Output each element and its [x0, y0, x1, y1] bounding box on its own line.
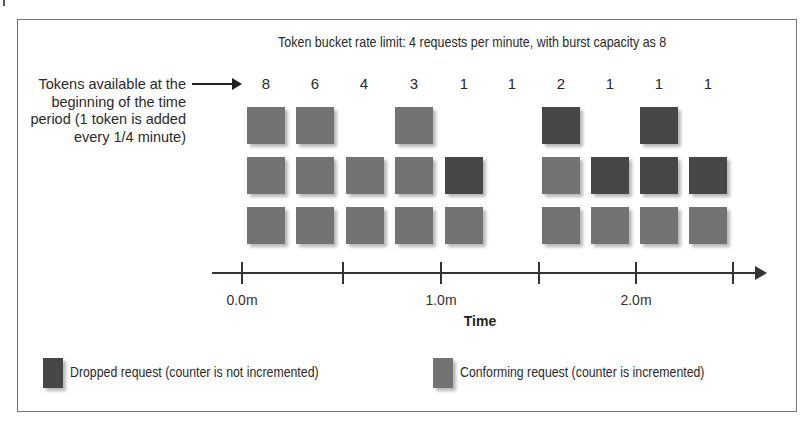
- figure-title: Token bucket rate limit: 4 requests per …: [240, 34, 704, 50]
- dropped-request: [640, 107, 678, 144]
- tokens-note: Tokens available at the beginning of the…: [20, 76, 186, 146]
- conforming-request: [542, 157, 580, 194]
- dropped-request: [689, 157, 727, 194]
- tick-label: 2.0m: [611, 292, 661, 308]
- conforming-request: [445, 207, 483, 244]
- token-count: 6: [300, 75, 330, 92]
- conforming-request: [640, 207, 678, 244]
- conforming-request: [395, 107, 433, 144]
- conforming-request: [395, 207, 433, 244]
- token-count: 1: [449, 75, 479, 92]
- token-count: 3: [399, 75, 429, 92]
- token-count: 2: [546, 75, 576, 92]
- arrow-right-icon: [192, 83, 240, 85]
- legend-label-conforming: Conforming request (counter is increment…: [460, 364, 704, 380]
- conforming-request: [296, 207, 334, 244]
- conforming-request: [395, 157, 433, 194]
- conforming-request: [296, 157, 334, 194]
- token-count: 1: [595, 75, 625, 92]
- tick-label: 0.0m: [217, 292, 267, 308]
- axis-tick: [732, 262, 734, 284]
- axis-title: Time: [450, 313, 510, 329]
- time-axis: [212, 272, 757, 274]
- axis-tick: [538, 262, 540, 284]
- legend-swatch-dropped: [43, 358, 63, 388]
- token-count: 1: [644, 75, 674, 92]
- token-count: 1: [497, 75, 527, 92]
- conforming-request: [247, 207, 285, 244]
- dropped-request: [640, 157, 678, 194]
- conforming-request: [591, 207, 629, 244]
- corner-mark: [3, 0, 5, 6]
- axis-tick: [440, 262, 442, 284]
- conforming-request: [296, 107, 334, 144]
- tick-label: 1.0m: [416, 292, 466, 308]
- token-count: 1: [693, 75, 723, 92]
- axis-tick: [241, 262, 243, 284]
- conforming-request: [247, 107, 285, 144]
- conforming-request: [346, 207, 384, 244]
- legend-swatch-conforming: [433, 358, 453, 388]
- axis-tick: [342, 262, 344, 284]
- conforming-request: [247, 157, 285, 194]
- conforming-request: [689, 207, 727, 244]
- dropped-request: [591, 157, 629, 194]
- axis-tick: [635, 262, 637, 284]
- dropped-request: [542, 107, 580, 144]
- token-count: 4: [349, 75, 379, 92]
- legend-label-dropped: Dropped request (counter is not incremen…: [70, 364, 319, 380]
- conforming-request: [346, 157, 384, 194]
- conforming-request: [542, 207, 580, 244]
- token-count: 8: [251, 75, 281, 92]
- dropped-request: [445, 157, 483, 194]
